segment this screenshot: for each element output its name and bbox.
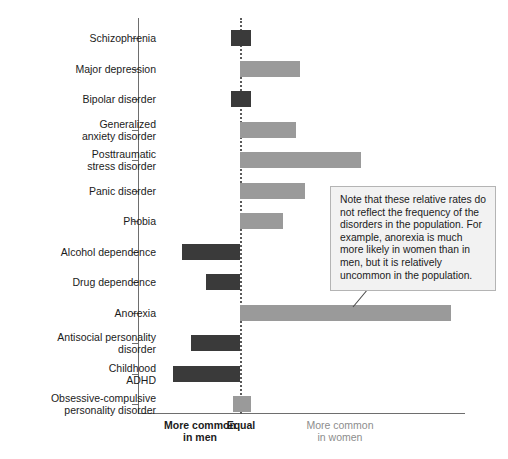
bar — [240, 305, 451, 321]
category-label: Drug dependence — [0, 276, 156, 288]
bar — [173, 366, 240, 382]
category-label: Bipolar disorder — [0, 93, 156, 105]
bar — [191, 335, 240, 351]
x-axis-line — [138, 413, 465, 414]
bar — [231, 30, 251, 46]
category-label: Posttraumatic stress disorder — [0, 148, 156, 173]
bar — [240, 183, 305, 199]
chart-figure: SchizophreniaMajor depressionBipolar dis… — [0, 0, 508, 459]
category-label: Anorexia — [0, 306, 156, 318]
category-label: Major depression — [0, 62, 156, 74]
bar — [182, 244, 240, 260]
bar — [240, 122, 296, 138]
bar — [206, 274, 240, 290]
bar — [231, 91, 251, 107]
bar — [240, 213, 283, 229]
category-label: Alcohol dependence — [0, 245, 156, 257]
bar — [233, 396, 251, 412]
bar — [240, 152, 361, 168]
annotation-note: Note that these relative rates do not re… — [330, 186, 496, 291]
category-label: Phobia — [0, 215, 156, 227]
category-label: Generalized anxiety disorder — [0, 117, 156, 142]
category-label: Schizophrenia — [0, 32, 156, 44]
category-label: Childhood ADHD — [0, 361, 156, 386]
bar — [240, 61, 300, 77]
category-label: Obsessive-compulsive personality disorde… — [0, 392, 156, 417]
category-label: Panic disorder — [0, 184, 156, 196]
category-label: Antisocial personality disorder — [0, 331, 156, 356]
axis-caption-equal: Equal — [219, 419, 263, 431]
axis-caption-women: More common in women — [280, 419, 400, 444]
